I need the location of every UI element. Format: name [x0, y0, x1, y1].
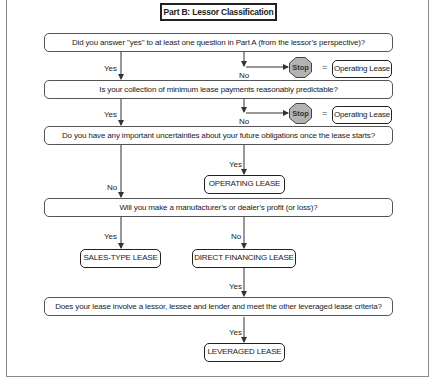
direct-financing-lease-result: DIRECT FINANCING LEASE — [192, 249, 296, 268]
q4-yes-label: Yes — [104, 232, 117, 241]
q4-no-label: No — [231, 232, 241, 241]
leveraged-lease-result: LEVERAGED LEASE — [204, 343, 285, 362]
q3-no-label: No — [107, 183, 117, 192]
question-box-3: Do you have any important uncertainties … — [44, 126, 393, 145]
diagram-title: Part B: Lessor Classification — [160, 3, 277, 21]
q2-yes-label: Yes — [104, 110, 117, 119]
question-box-1: Did you answer "yes" to at least one que… — [44, 33, 393, 52]
stop-sign-icon: Stop — [289, 103, 312, 124]
question-box-2: Is your collection of minimum lease paym… — [44, 80, 393, 99]
question-box-4: Will you make a manufacturer’s or dealer… — [44, 198, 393, 217]
stop-label: Stop — [289, 57, 312, 78]
q2-no-label: No — [239, 117, 249, 126]
sales-type-lease-result: SALES-TYPE LEASE — [80, 249, 161, 268]
q1-no-label: No — [239, 71, 249, 80]
operating-lease-result: OPERATING LEASE — [204, 175, 285, 194]
question-box-5: Does your lease involve a lessor, lessee… — [44, 297, 393, 316]
stop-sign-icon: Stop — [289, 57, 312, 78]
q5-yes-label: Yes — [229, 328, 242, 337]
operating-lease-result-1: Operating Lease — [332, 60, 392, 78]
q1-yes-label: Yes — [104, 64, 117, 73]
q3-yes-label: Yes — [229, 160, 242, 169]
direct-financing-yes-label: Yes — [229, 282, 242, 291]
operating-lease-result-2: Operating Lease — [332, 106, 392, 124]
stop-label: Stop — [289, 103, 312, 124]
equals-sign: = — [322, 63, 327, 72]
equals-sign: = — [322, 109, 327, 118]
